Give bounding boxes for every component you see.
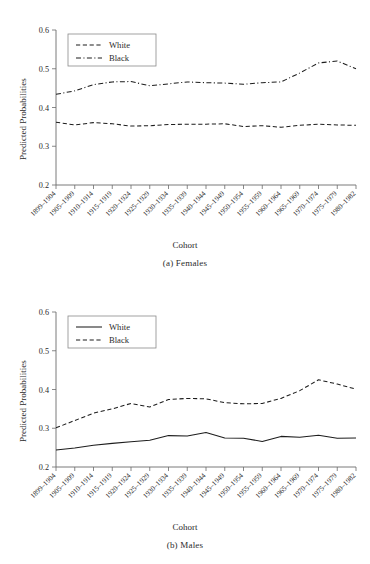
x-axis-title-males: Cohort bbox=[0, 522, 370, 532]
series-line-white bbox=[56, 122, 356, 127]
series-line-black bbox=[56, 380, 356, 428]
y-tick-label: 0.2 bbox=[39, 463, 49, 472]
series-line-white bbox=[56, 433, 356, 450]
legend-label-white: White bbox=[109, 322, 130, 332]
caption-females: (a) Females bbox=[0, 258, 370, 268]
y-tick-label: 0.5 bbox=[39, 347, 49, 356]
y-tick-label: 0.6 bbox=[39, 308, 49, 317]
x-axis-title-females: Cohort bbox=[0, 240, 370, 250]
panel-females: 0.20.30.40.50.61899–19041905–19091910–19… bbox=[0, 0, 370, 282]
y-tick-label: 0.4 bbox=[39, 104, 49, 113]
y-tick-label: 0.3 bbox=[39, 142, 49, 151]
y-axis-title-females: Predicted Probabilities bbox=[18, 78, 28, 160]
y-axis-title-males: Predicted Probabilities bbox=[18, 360, 28, 442]
y-tick-label: 0.6 bbox=[39, 26, 49, 35]
y-tick-label: 0.4 bbox=[39, 386, 49, 395]
legend-label-black: Black bbox=[109, 53, 130, 63]
y-tick-label: 0.5 bbox=[39, 65, 49, 74]
legend-label-black: Black bbox=[109, 335, 130, 345]
y-tick-label: 0.2 bbox=[39, 181, 49, 190]
y-tick-label: 0.3 bbox=[39, 424, 49, 433]
caption-males: (b) Males bbox=[0, 540, 370, 550]
legend-label-white: White bbox=[109, 40, 130, 50]
panel-males: 0.20.30.40.50.61899–19041905–19091910–19… bbox=[0, 282, 370, 564]
